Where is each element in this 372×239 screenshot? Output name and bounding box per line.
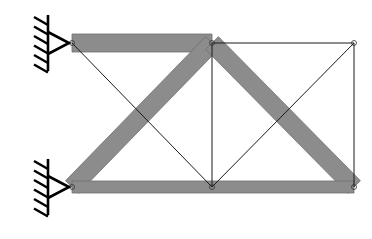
pin-support-icon <box>34 15 69 73</box>
nodes <box>70 41 357 190</box>
pin-support-icon <box>34 159 69 217</box>
thick-member-n1-n2 <box>72 34 212 52</box>
thick-member-n4-n6 <box>72 181 354 193</box>
supports <box>34 15 69 217</box>
thick-members <box>66 34 361 193</box>
thin-members <box>72 43 354 187</box>
truss-diagram <box>0 0 372 239</box>
